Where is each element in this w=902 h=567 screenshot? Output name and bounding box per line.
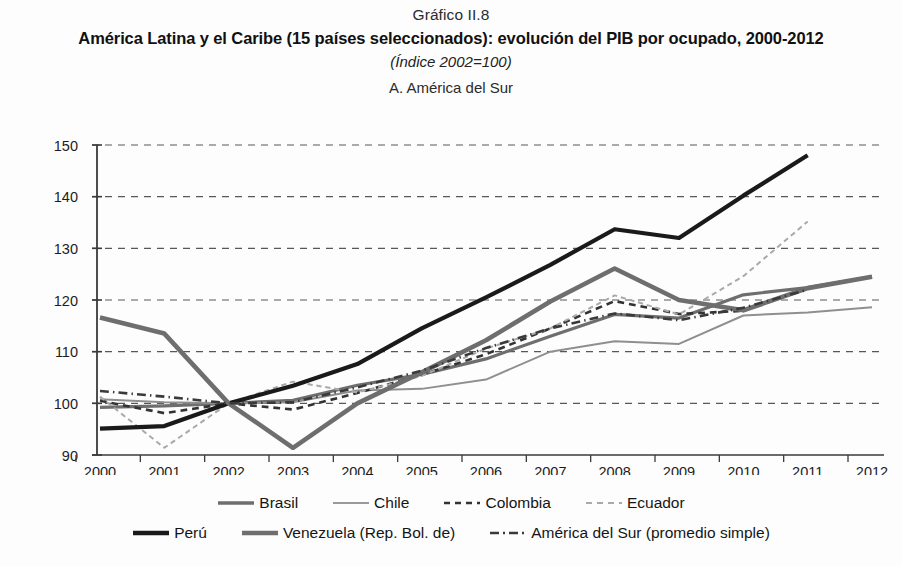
panel-label: A. América del Sur xyxy=(0,73,902,99)
legend-swatch-icon xyxy=(443,496,481,510)
legend-swatch-icon xyxy=(489,526,527,540)
legend-swatch-icon xyxy=(241,526,279,540)
y-axis-tick-label: 120 xyxy=(54,293,78,309)
page-title: América Latina y el Caribe (15 países se… xyxy=(0,25,902,50)
plot-area: 9010011012013014015020002001200220032004… xyxy=(0,130,902,475)
figure-number: Gráfico II.8 xyxy=(0,4,902,25)
legend-swatch-icon xyxy=(585,496,623,510)
legend-item-colombia[interactable]: Colombia xyxy=(443,495,550,511)
chart-subtitle: (Índice 2002=100) xyxy=(0,50,902,73)
legend-swatch-icon xyxy=(332,496,370,510)
legend-label: Chile xyxy=(374,495,409,511)
legend-swatch-icon xyxy=(132,526,170,540)
x-axis-tick-label: 2010 xyxy=(727,464,759,475)
x-axis-tick-label: 2011 xyxy=(792,464,823,475)
legend-swatch-icon xyxy=(217,496,255,510)
legend-label: Venezuela (Rep. Bol. de) xyxy=(283,525,455,541)
y-axis-tick-label: 100 xyxy=(54,396,78,412)
x-axis-tick-label: 2003 xyxy=(277,464,309,475)
x-axis-tick-label: 2007 xyxy=(534,464,566,475)
x-axis-tick-label: 2001 xyxy=(148,464,180,475)
chart-legend: BrasilChileColombiaEcuador PerúVenezuela… xyxy=(0,488,902,560)
x-axis-tick-label: 2012 xyxy=(856,464,888,475)
series-line-per xyxy=(100,155,808,428)
legend-row-2: PerúVenezuela (Rep. Bol. de)América del … xyxy=(0,518,902,548)
legend-label: América del Sur (promedio simple) xyxy=(531,525,770,541)
legend-item-brasil[interactable]: Brasil xyxy=(217,495,298,511)
series-line-am-rica-del-sur-promedio-simple xyxy=(100,290,808,404)
legend-item-per[interactable]: Perú xyxy=(132,525,207,541)
legend-label: Perú xyxy=(174,525,207,541)
x-axis-tick-label: 2005 xyxy=(406,464,438,475)
x-axis-tick-label: 2002 xyxy=(213,464,245,475)
chart-header: Gráfico II.8 América Latina y el Caribe … xyxy=(0,4,902,99)
x-axis-tick-label: 2000 xyxy=(84,464,116,475)
y-axis-tick-label: 140 xyxy=(54,189,78,205)
x-axis-tick-label: 2006 xyxy=(470,464,502,475)
legend-item-am-rica-del-sur-promedio-simple[interactable]: América del Sur (promedio simple) xyxy=(489,525,770,541)
legend-item-ecuador[interactable]: Ecuador xyxy=(585,495,685,511)
legend-label: Brasil xyxy=(259,495,298,511)
x-axis-tick-label: 2009 xyxy=(663,464,695,475)
y-axis-tick-label: 110 xyxy=(55,344,78,360)
y-axis-tick-label: 150 xyxy=(54,138,78,154)
legend-row-1: BrasilChileColombiaEcuador xyxy=(0,488,902,518)
line-chart-svg: 9010011012013014015020002001200220032004… xyxy=(0,130,902,475)
chart-page: Gráfico II.8 América Latina y el Caribe … xyxy=(0,0,902,567)
legend-label: Colombia xyxy=(485,495,550,511)
x-axis-tick-label: 2004 xyxy=(341,464,373,475)
legend-item-chile[interactable]: Chile xyxy=(332,495,409,511)
series-line-colombia xyxy=(100,289,808,414)
legend-item-venezuela-rep-bol-de[interactable]: Venezuela (Rep. Bol. de) xyxy=(241,525,455,541)
x-axis-tick-label: 2008 xyxy=(599,464,631,475)
legend-label: Ecuador xyxy=(627,495,685,511)
y-axis-tick-label: 130 xyxy=(54,241,78,257)
